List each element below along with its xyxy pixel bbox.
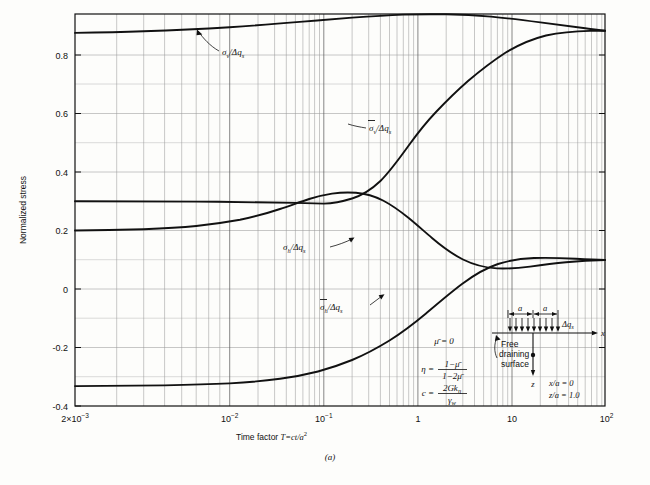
diagram-z-label: z xyxy=(530,379,535,389)
curve-label-sigma-v-effective: σv/Δqs xyxy=(369,123,392,135)
equation-eta-denominator: 1−2μ̄ xyxy=(442,371,465,381)
equation-mu: μ̄ = 0 xyxy=(433,336,454,346)
stress-vs-time-factor-chart: 0.8 0.6 0.4 0.2 0 -0.2 -0.4 Normalized s… xyxy=(0,0,650,485)
y-axis-title: Normalized stress xyxy=(18,176,28,244)
y-tick-label-5: -0.2 xyxy=(52,343,68,353)
equation-eta-label: η = xyxy=(421,364,434,374)
curve-label-sigma-v-total: σv/Δqs xyxy=(222,47,245,59)
diagram-x-label: x xyxy=(600,328,605,338)
caption-free-draining-line2: draining xyxy=(499,349,530,359)
x-axis-title: Time factor T=ct/a2 xyxy=(236,430,307,442)
curve-label-sigma-h-effective: σh/Δqs xyxy=(320,302,343,314)
ratio-z-over-a: z/a = 1.0 xyxy=(548,390,580,400)
curve-label-sigma-h-total: σh/Δqs xyxy=(283,242,306,254)
y-tick-label-4: 0 xyxy=(63,285,68,295)
caption-free-draining-line3: surface xyxy=(501,359,529,369)
evaluation-point-marker xyxy=(531,353,535,357)
dimension-label-left: a xyxy=(518,303,522,313)
figure-container: 0.8 0.6 0.4 0.2 0 -0.2 -0.4 Normalized s… xyxy=(0,0,650,485)
x-tick-label-3: 1 xyxy=(415,414,420,424)
y-tick-label-3: 0.2 xyxy=(55,226,68,236)
y-tick-label-2: 0.4 xyxy=(55,168,68,178)
caption-free-draining-line1: Free xyxy=(501,339,519,349)
equation-c-label: c = xyxy=(422,388,434,398)
y-tick-label-6: -0.4 xyxy=(52,402,68,412)
x-tick-label-4: 10 xyxy=(507,414,517,424)
y-tick-label-0: 0.8 xyxy=(55,51,68,61)
panel-label: (a) xyxy=(325,452,336,462)
dimension-label-right: a xyxy=(543,303,547,313)
load-arrows xyxy=(508,318,560,332)
y-tick-label-1: 0.6 xyxy=(55,109,68,119)
ratio-x-over-a: x/a = 0 xyxy=(548,378,574,388)
